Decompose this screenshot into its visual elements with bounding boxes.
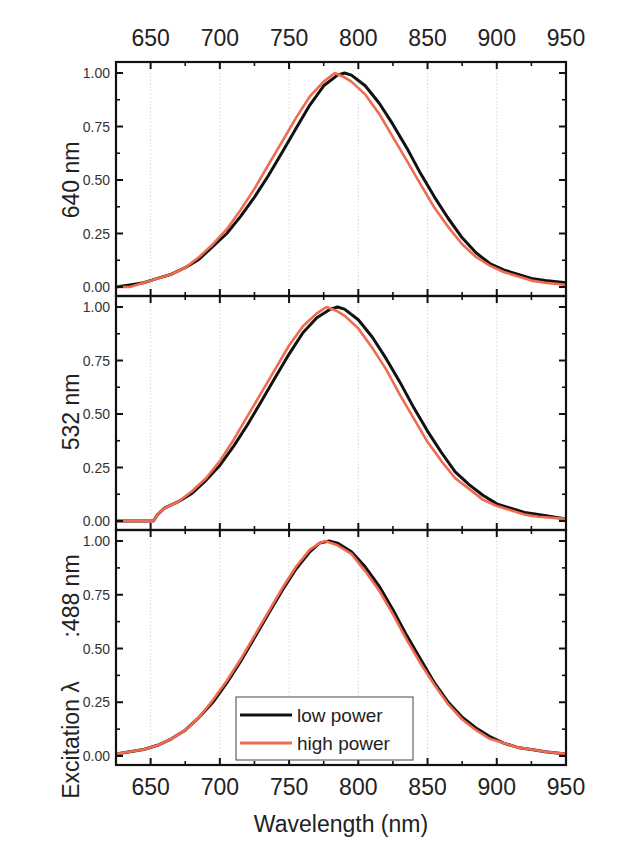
y-tick-label: 0.00 <box>83 513 110 529</box>
y-tick-label: 0.50 <box>83 172 110 188</box>
curve-high-power <box>116 73 566 287</box>
y-tick-label: 0.25 <box>83 694 110 710</box>
x-tick-label: 700 <box>201 774 239 800</box>
top-x-tick-label: 700 <box>201 25 239 51</box>
y-tick-label: 1.00 <box>83 533 110 549</box>
curve-high-power <box>116 307 566 521</box>
panel3-ylabel-part1: Excitation λ <box>58 681 84 799</box>
panel-frame <box>116 296 566 530</box>
legend-label-low-power: low power <box>297 705 383 726</box>
panel-frames <box>116 62 566 765</box>
top-x-tick-label: 650 <box>131 25 169 51</box>
panel1-ylabel: 640 nm <box>58 142 84 219</box>
spectra-curves <box>116 73 566 754</box>
y-tick-label: 0.50 <box>83 406 110 422</box>
spectra-chart: 0.000.250.500.751.000.000.250.500.751.00… <box>0 0 617 867</box>
axis-ticks <box>116 62 566 765</box>
y-tick-label: 0.25 <box>83 460 110 476</box>
legend: low power high power <box>236 697 413 760</box>
y-tick-label: 0.00 <box>83 748 110 764</box>
legend-label-high-power: high power <box>297 733 391 754</box>
x-tick-label: 950 <box>547 774 585 800</box>
y-tick-label: 0.75 <box>83 587 110 603</box>
top-x-tick-label: 900 <box>478 25 516 51</box>
panel3-ylabel-part2: :488 nm <box>58 554 84 637</box>
y-tick-label: 0.50 <box>83 641 110 657</box>
y-tick-label: 0.75 <box>83 353 110 369</box>
curve-low-power <box>116 307 566 521</box>
x-tick-label: 800 <box>339 774 377 800</box>
curve-low-power <box>116 73 566 287</box>
top-x-tick-label: 800 <box>339 25 377 51</box>
x-axis-title: Wavelength (nm) <box>254 811 428 837</box>
panel-frame <box>116 62 566 296</box>
y-tick-label: 1.00 <box>83 299 110 315</box>
panel2-ylabel: 532 nm <box>58 374 84 451</box>
x-tick-label: 850 <box>408 774 446 800</box>
tick-labels: 0.000.250.500.751.000.000.250.500.751.00… <box>83 25 585 800</box>
top-x-tick-label: 750 <box>270 25 308 51</box>
grid-lines <box>151 62 497 765</box>
x-tick-label: 900 <box>478 774 516 800</box>
y-tick-label: 0.75 <box>83 119 110 135</box>
y-tick-label: 1.00 <box>83 65 110 81</box>
y-tick-label: 0.00 <box>83 279 110 295</box>
top-x-tick-label: 850 <box>408 25 446 51</box>
x-tick-label: 650 <box>131 774 169 800</box>
y-tick-label: 0.25 <box>83 226 110 242</box>
x-tick-label: 750 <box>270 774 308 800</box>
top-x-tick-label: 950 <box>547 25 585 51</box>
